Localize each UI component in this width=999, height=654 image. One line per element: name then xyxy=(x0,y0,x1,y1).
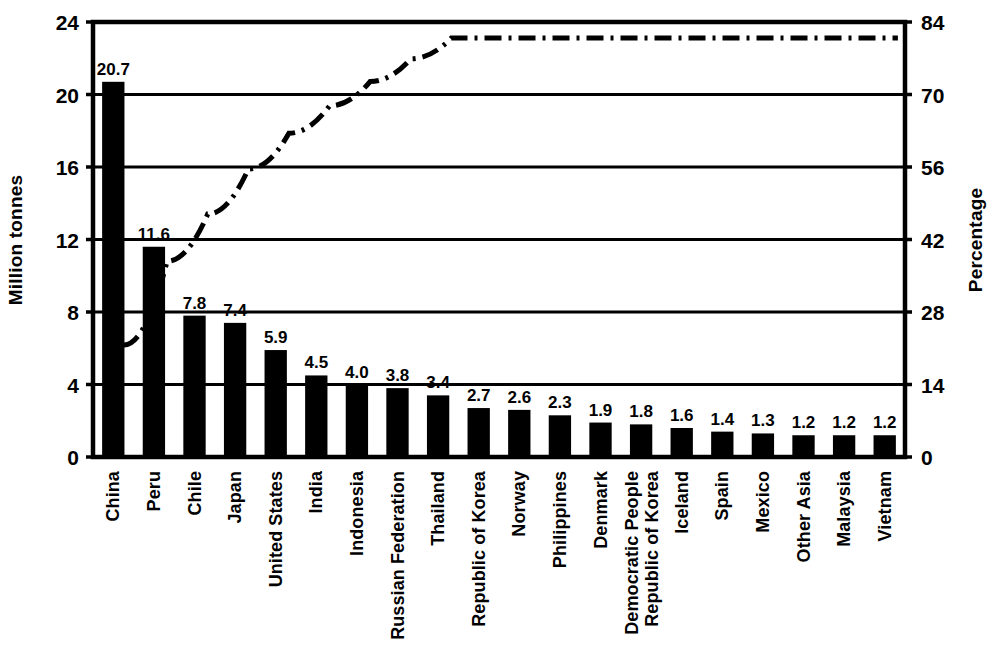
bar-value-label: 5.9 xyxy=(264,328,288,347)
bar-value-label: 4.5 xyxy=(304,353,328,372)
left-tick-label: 0 xyxy=(67,446,79,469)
bar-value-label: 1.2 xyxy=(873,413,897,432)
pareto-chart: 04812162024 0142842567084 20.711.67.87.4… xyxy=(0,0,999,654)
right-tick-label: 70 xyxy=(921,84,944,107)
bar-value-label: 20.7 xyxy=(97,60,130,79)
category-label: Japan xyxy=(225,471,245,524)
bar xyxy=(224,323,246,457)
bar xyxy=(386,388,408,457)
category-label: Indonesia xyxy=(347,470,367,556)
bar xyxy=(508,410,530,457)
bar-value-label: 2.6 xyxy=(507,388,531,407)
category-label: India xyxy=(306,470,326,513)
bar xyxy=(752,433,774,457)
category-label: China xyxy=(103,470,123,521)
right-axis-title: Percentage xyxy=(965,188,986,292)
bar xyxy=(671,428,693,457)
category-label: United States xyxy=(266,471,286,587)
right-tick-label: 28 xyxy=(921,301,945,324)
bar-series xyxy=(102,82,896,457)
bar-value-label: 1.8 xyxy=(629,402,653,421)
right-tick-label: 42 xyxy=(921,229,944,252)
bar-value-label: 4.0 xyxy=(345,363,369,382)
bar xyxy=(792,435,814,457)
left-axis-tick-labels: 04812162024 xyxy=(56,11,80,469)
left-tick-label: 4 xyxy=(67,374,79,397)
category-label: Russian Federation xyxy=(388,471,408,640)
category-label: Chile xyxy=(185,471,205,516)
bar-value-label: 11.6 xyxy=(138,225,170,244)
category-label: Republic of Korea xyxy=(642,470,662,627)
bar xyxy=(833,435,855,457)
left-tick-label: 16 xyxy=(56,156,79,179)
category-label: Iceland xyxy=(672,471,692,534)
left-tick-label: 20 xyxy=(56,84,79,107)
left-tick-label: 24 xyxy=(56,11,80,34)
bar-value-label: 7.4 xyxy=(223,301,247,320)
category-label: Philippines xyxy=(550,471,570,568)
category-label: Mexico xyxy=(753,471,773,533)
right-tick-label: 14 xyxy=(921,374,945,397)
category-label: Republic of Korea xyxy=(469,470,489,627)
bar xyxy=(711,432,733,457)
category-label: Denmark xyxy=(591,470,611,549)
bar xyxy=(630,424,652,457)
right-tick-label: 56 xyxy=(921,156,944,179)
category-label: Thailand xyxy=(428,471,448,546)
category-label: Norway xyxy=(509,471,529,537)
bar xyxy=(346,385,368,458)
bar-value-label: 1.2 xyxy=(832,413,856,432)
bar xyxy=(183,316,205,457)
cumulative-line-series xyxy=(124,38,898,345)
bar xyxy=(265,350,287,457)
chart-container: 04812162024 0142842567084 20.711.67.87.4… xyxy=(0,0,999,654)
left-tick-label: 12 xyxy=(56,229,79,252)
bar xyxy=(589,423,611,457)
category-label: Malaysia xyxy=(834,470,854,547)
left-tick-label: 8 xyxy=(67,301,79,324)
bar-value-labels: 20.711.67.87.45.94.54.03.83.42.72.62.31.… xyxy=(97,60,897,432)
right-tick-label: 0 xyxy=(921,446,933,469)
category-axis-labels: ChinaPeruChileJapanUnited StatesIndiaInd… xyxy=(103,470,894,640)
bar xyxy=(549,415,571,457)
category-label: Peru xyxy=(144,471,164,511)
category-label: Democratic People xyxy=(622,471,642,635)
bar-value-label: 1.4 xyxy=(710,410,734,429)
cumulative-percentage-line xyxy=(124,38,898,345)
bar-value-label: 3.4 xyxy=(426,373,450,392)
category-label: Vietnam xyxy=(875,471,895,541)
bar-value-label: 7.8 xyxy=(183,294,207,313)
bar-value-label: 1.9 xyxy=(589,401,613,420)
bar-value-label: 1.3 xyxy=(751,411,775,430)
right-axis-tick-labels: 0142842567084 xyxy=(921,11,945,469)
gridlines xyxy=(93,95,905,385)
bar-value-label: 1.2 xyxy=(792,413,816,432)
bar xyxy=(305,375,327,457)
category-label: Other Asia xyxy=(794,470,814,562)
bar xyxy=(102,82,124,457)
left-axis-title: Million tonnes xyxy=(5,175,26,306)
right-tick-label: 84 xyxy=(921,11,945,34)
bar xyxy=(468,408,490,457)
bar xyxy=(427,395,449,457)
bar-value-label: 2.7 xyxy=(467,386,491,405)
category-label: Spain xyxy=(712,471,732,521)
bar-value-label: 2.3 xyxy=(548,393,572,412)
bar-value-label: 3.8 xyxy=(386,366,410,385)
bar-value-label: 1.6 xyxy=(670,406,694,425)
bar xyxy=(874,435,896,457)
